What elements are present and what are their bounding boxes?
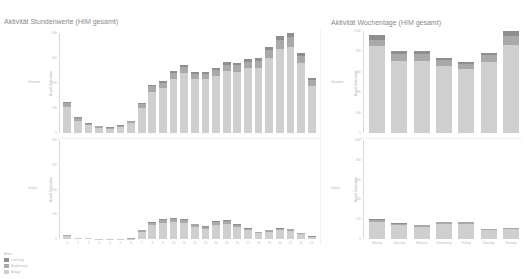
bar-0[interactable] bbox=[63, 102, 71, 134]
bar-Freitag[interactable] bbox=[458, 222, 474, 239]
bar-segment-anlage bbox=[369, 46, 385, 133]
bar-11[interactable] bbox=[180, 219, 188, 239]
bar-17[interactable] bbox=[244, 228, 252, 239]
bar-4[interactable] bbox=[106, 127, 114, 133]
bar-Donnerstag[interactable] bbox=[436, 58, 452, 133]
bar-segment-anlage bbox=[148, 92, 156, 133]
x-tick-label: 9 bbox=[158, 241, 169, 245]
bar-13[interactable] bbox=[202, 72, 210, 133]
bar-17[interactable] bbox=[244, 59, 252, 133]
x-tick-label: 2 bbox=[83, 241, 94, 245]
bar-14[interactable] bbox=[212, 68, 220, 134]
bar-5[interactable] bbox=[117, 125, 125, 133]
bar-segment-anlage bbox=[436, 224, 452, 239]
bar-16[interactable] bbox=[233, 224, 241, 239]
y-tick-label: 200 bbox=[351, 217, 361, 221]
bar-10[interactable] bbox=[170, 71, 178, 133]
weekdays-panel-divider bbox=[360, 138, 522, 139]
bar-19[interactable] bbox=[265, 47, 273, 133]
bar-1[interactable] bbox=[74, 238, 82, 239]
bar-6[interactable] bbox=[127, 121, 135, 134]
bar-segment-anlage bbox=[481, 230, 497, 239]
bar-segment-anlage bbox=[414, 227, 430, 239]
weekdays-chart-title: Aktivität Wochentage (HIM gesamt) bbox=[331, 19, 441, 26]
bar-Mittwoch[interactable] bbox=[414, 51, 430, 133]
legend-label: Bearbeitung bbox=[11, 264, 27, 268]
bar-15[interactable] bbox=[223, 220, 231, 239]
bar-3[interactable] bbox=[95, 126, 103, 133]
bar-12[interactable] bbox=[191, 72, 199, 133]
y-tick-label: 400 bbox=[351, 197, 361, 201]
x-tick-label: 6 bbox=[126, 241, 137, 245]
bar-21[interactable] bbox=[287, 229, 295, 239]
x-tick-label: 10 bbox=[168, 241, 179, 245]
y-tick-label: 0 bbox=[47, 237, 57, 241]
bar-7[interactable] bbox=[138, 230, 146, 239]
bar-6[interactable] bbox=[127, 238, 135, 239]
bar-Donnerstag[interactable] bbox=[436, 222, 452, 239]
y-tick-label: 400 bbox=[351, 90, 361, 94]
bar-18[interactable] bbox=[255, 232, 263, 239]
bar-segment-anlage bbox=[180, 223, 188, 239]
bar-16[interactable] bbox=[233, 63, 241, 133]
bar-11[interactable] bbox=[180, 65, 188, 134]
bar-segment-anlage bbox=[85, 125, 93, 133]
bar-segment-anlage bbox=[287, 47, 295, 133]
bar-segment-anlage bbox=[202, 229, 210, 239]
bar-segment-anlage bbox=[391, 61, 407, 133]
bar-1[interactable] bbox=[74, 117, 82, 133]
bar-7[interactable] bbox=[138, 103, 146, 133]
bar-segment-anlage bbox=[244, 230, 252, 239]
bar-0[interactable] bbox=[63, 235, 71, 239]
x-tick-label: 1 bbox=[73, 241, 84, 245]
bar-segment-anlage bbox=[148, 225, 156, 239]
bar-20[interactable] bbox=[276, 36, 284, 133]
x-tick-label: 4 bbox=[105, 241, 116, 245]
bar-Sonntag[interactable] bbox=[503, 31, 519, 133]
bar-9[interactable] bbox=[159, 219, 167, 239]
x-tick-label: 19 bbox=[264, 241, 275, 245]
bar-segment-anlage bbox=[63, 236, 71, 239]
bar-10[interactable] bbox=[170, 218, 178, 239]
bar-13[interactable] bbox=[202, 226, 210, 239]
bar-Dienstag[interactable] bbox=[391, 51, 407, 133]
bar-19[interactable] bbox=[265, 230, 273, 239]
bar-20[interactable] bbox=[276, 228, 284, 239]
bar-9[interactable] bbox=[159, 81, 167, 134]
bar-22[interactable] bbox=[297, 53, 305, 134]
bar-8[interactable] bbox=[148, 85, 156, 134]
bar-14[interactable] bbox=[212, 221, 220, 239]
bar-15[interactable] bbox=[223, 62, 231, 133]
bar-segment-bearbeitung bbox=[276, 40, 284, 50]
bar-segment-anlage bbox=[212, 76, 220, 134]
bar-18[interactable] bbox=[255, 58, 263, 133]
y-tick-label: 0 bbox=[351, 131, 361, 135]
x-tick-label: 23 bbox=[306, 241, 317, 245]
bar-Samstag[interactable] bbox=[481, 53, 497, 133]
y-tick-label: 200 bbox=[47, 81, 57, 85]
y-tick-label: 300 bbox=[47, 56, 57, 60]
bar-Mittwoch[interactable] bbox=[414, 225, 430, 239]
bar-Dienstag[interactable] bbox=[391, 223, 407, 239]
bar-Montag[interactable] bbox=[369, 35, 385, 133]
bar-Montag[interactable] bbox=[369, 219, 385, 239]
y-axis-line bbox=[59, 33, 60, 133]
bar-21[interactable] bbox=[287, 33, 295, 133]
bar-segment-anlage bbox=[223, 224, 231, 239]
x-tick-label: 18 bbox=[253, 241, 264, 245]
bar-2[interactable] bbox=[85, 238, 93, 239]
bar-Samstag[interactable] bbox=[481, 229, 497, 239]
bar-8[interactable] bbox=[148, 222, 156, 239]
bar-segment-anlage bbox=[170, 79, 178, 133]
bar-2[interactable] bbox=[85, 123, 93, 133]
bar-12[interactable] bbox=[191, 224, 199, 239]
y-tick-label: 800 bbox=[351, 158, 361, 162]
bar-23[interactable] bbox=[308, 78, 316, 133]
bar-Sonntag[interactable] bbox=[503, 228, 519, 239]
y-tick-label: 1000 bbox=[351, 138, 361, 142]
legend-item-anlage[interactable]: Anlage bbox=[4, 269, 27, 275]
bar-22[interactable] bbox=[297, 233, 305, 239]
bar-Freitag[interactable] bbox=[458, 62, 474, 133]
bar-segment-anlage bbox=[276, 49, 284, 133]
bar-23[interactable] bbox=[308, 236, 316, 239]
